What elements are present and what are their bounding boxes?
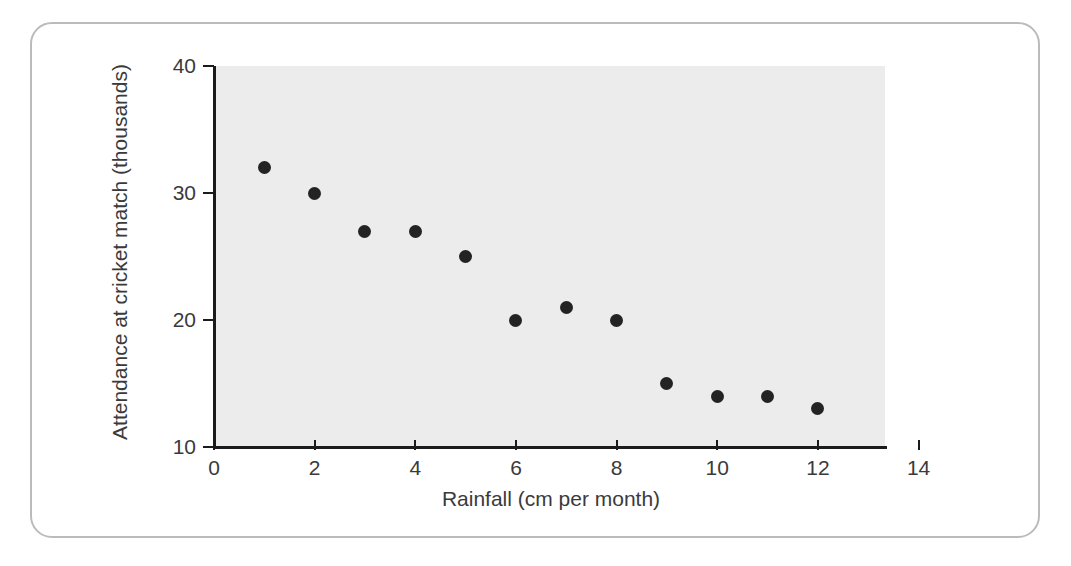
y-tick-20: [203, 319, 214, 321]
data-point: [711, 390, 724, 403]
x-tick-label-10: 10: [687, 455, 747, 480]
data-point: [509, 314, 522, 327]
y-tick-30: [203, 192, 214, 194]
x-tick-label-12: 12: [788, 455, 848, 480]
data-point: [308, 187, 321, 200]
x-tick-12: [817, 440, 819, 450]
y-tick-label-text: 30: [150, 182, 196, 203]
y-tick-label-text: 40: [150, 55, 196, 76]
x-tick-label-0: 0: [184, 455, 244, 480]
y-tick-label-40: 40: [144, 55, 196, 77]
data-point: [258, 161, 271, 174]
x-tick-label-14: 14: [889, 455, 949, 480]
x-tick-14: [918, 440, 920, 450]
y-axis-line: [213, 66, 216, 449]
x-tick-label-6: 6: [486, 455, 546, 480]
x-tick-2: [314, 440, 316, 450]
x-tick-10: [716, 440, 718, 450]
y-tick-40: [203, 65, 214, 67]
y-axis-title: Attendance at cricket match (thousands): [108, 42, 132, 462]
y-tick-label-20: 20: [144, 309, 196, 331]
data-point: [560, 301, 573, 314]
data-point: [610, 314, 623, 327]
x-tick-8: [616, 440, 618, 450]
data-point: [409, 225, 422, 238]
x-tick-label-2: 2: [285, 455, 345, 480]
x-tick-6: [515, 440, 517, 450]
plot-area: [215, 66, 885, 447]
y-tick-label-30: 30: [144, 182, 196, 204]
x-axis-title: Rainfall (cm per month): [215, 487, 887, 511]
data-point: [761, 390, 774, 403]
x-tick-4: [414, 440, 416, 450]
y-tick-label-text: 10: [150, 436, 196, 457]
x-tick-0: [213, 440, 215, 450]
scatter-chart: 10203040 02468101214 Rainfall (cm per mo…: [0, 0, 1071, 566]
x-tick-label-4: 4: [385, 455, 445, 480]
y-tick-label-text: 20: [150, 309, 196, 330]
x-tick-label-8: 8: [587, 455, 647, 480]
